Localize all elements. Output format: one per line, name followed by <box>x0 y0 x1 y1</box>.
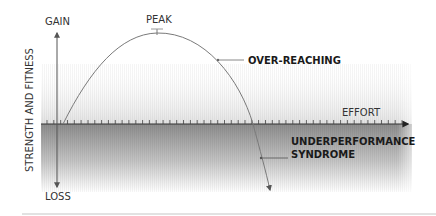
background-band <box>41 64 412 192</box>
underperformance-label-line2: SYNDROME <box>291 149 355 160</box>
underperformance-label-line1: UNDERPERFORMANCE <box>291 136 416 147</box>
loss-label: LOSS <box>45 191 71 202</box>
gain-label: GAIN <box>45 16 70 27</box>
strength-and-fitness-label: STRENGTH AND FITNESS <box>24 48 35 172</box>
effort-label: EFFORT <box>342 107 381 118</box>
overtraining-diagram: GAIN LOSS PEAK EFFORT STRENGTH AND FITNE… <box>0 0 436 216</box>
over-reaching-label: OVER-REACHING <box>248 55 341 66</box>
peak-label: PEAK <box>146 14 172 25</box>
